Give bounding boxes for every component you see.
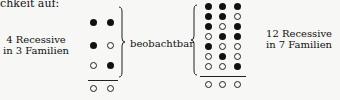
left-label-line1: 4 Recessive xyxy=(2,34,70,45)
filled-circle-icon xyxy=(107,19,114,26)
open-circle-icon xyxy=(205,81,212,88)
open-circle-icon xyxy=(219,43,226,50)
filled-circle-icon xyxy=(205,43,212,50)
left-label: 4 Recessive in 3 Familien xyxy=(2,34,70,56)
right-label-line2: in 7 Familien xyxy=(262,39,336,50)
open-circle-icon xyxy=(107,85,114,92)
open-circle-icon xyxy=(234,13,241,20)
right-label-line1: 12 Recessive xyxy=(262,28,336,39)
open-circle-icon xyxy=(219,63,226,70)
filled-circle-icon xyxy=(234,3,241,10)
open-circle-icon xyxy=(219,23,226,30)
open-circle-icon xyxy=(107,42,114,49)
filled-circle-icon xyxy=(90,42,97,49)
right-bracket xyxy=(190,4,198,76)
open-circle-icon xyxy=(234,43,241,50)
filled-circle-icon xyxy=(219,3,226,10)
open-circle-icon xyxy=(234,53,241,60)
filled-circle-icon xyxy=(219,53,226,60)
right-label: 12 Recessive in 7 Familien xyxy=(262,28,336,50)
filled-circle-icon xyxy=(90,19,97,26)
left-label-line2: in 3 Familien xyxy=(2,45,70,56)
open-circle-icon xyxy=(219,81,226,88)
open-circle-icon xyxy=(205,53,212,60)
open-circle-icon xyxy=(234,81,241,88)
filled-circle-icon xyxy=(219,13,226,20)
filled-circle-icon xyxy=(234,63,241,70)
open-circle-icon xyxy=(205,63,212,70)
filled-circle-icon xyxy=(234,33,241,40)
filled-circle-icon xyxy=(205,13,212,20)
left-bracket xyxy=(118,6,126,78)
open-circle-icon xyxy=(90,85,97,92)
left-divider xyxy=(88,80,118,81)
observable-label: beobachtbar xyxy=(130,38,194,49)
open-circle-icon xyxy=(205,33,212,40)
filled-circle-icon xyxy=(219,33,226,40)
filled-circle-icon xyxy=(205,3,212,10)
filled-circle-icon xyxy=(205,23,212,30)
header-text: chkeit auf: xyxy=(0,0,59,9)
right-divider xyxy=(200,76,246,77)
filled-circle-icon xyxy=(234,23,241,30)
open-circle-icon xyxy=(90,62,97,69)
filled-circle-icon xyxy=(107,62,114,69)
